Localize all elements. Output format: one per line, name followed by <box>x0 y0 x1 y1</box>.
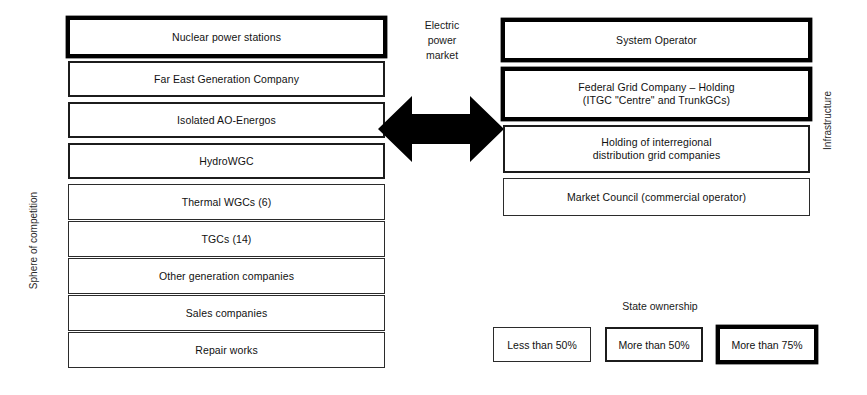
competition-node-label: Sales companies <box>186 307 267 320</box>
infrastructure-node-0[interactable]: System Operator <box>503 20 810 60</box>
competition-node-6[interactable]: Other generation companies <box>68 258 385 294</box>
infrastructure-node-1[interactable]: Federal Grid Company – Holding(ITGC "Cen… <box>503 69 810 119</box>
infrastructure-node-label: Federal Grid Company – Holding(ITGC "Cen… <box>578 81 735 107</box>
competition-node-label: Far East Generation Company <box>154 73 299 86</box>
legend-swatch-2[interactable]: More than 75% <box>718 327 816 362</box>
diagram-canvas: Sphere of competition Nuclear power stat… <box>0 0 867 395</box>
legend-swatch-1[interactable]: More than 50% <box>605 327 703 362</box>
competition-node-0[interactable]: Nuclear power stations <box>68 18 385 56</box>
legend-swatch-label: More than 75% <box>731 339 802 351</box>
competition-node-label: TGCs (14) <box>202 233 252 246</box>
competition-node-2[interactable]: Isolated AO-Energos <box>68 102 385 138</box>
competition-node-label: Thermal WGCs (6) <box>182 196 272 209</box>
competition-node-5[interactable]: TGCs (14) <box>68 221 385 257</box>
legend-swatch-0[interactable]: Less than 50% <box>493 327 591 362</box>
legend-title: State ownership <box>560 300 760 312</box>
infrastructure-node-label: Market Council (commercial operator) <box>567 191 746 204</box>
competition-node-label: Nuclear power stations <box>172 31 281 44</box>
electric-power-market-label: Electricpowermarket <box>396 18 488 63</box>
infrastructure-node-label: Holding of interregionaldistribution gri… <box>593 136 721 162</box>
competition-node-4[interactable]: Thermal WGCs (6) <box>68 184 385 220</box>
competition-node-label: Other generation companies <box>159 270 294 283</box>
competition-node-3[interactable]: HydroWGC <box>68 143 385 179</box>
legend-swatch-label: More than 50% <box>618 339 689 351</box>
competition-node-label: HydroWGC <box>199 155 253 168</box>
legend-swatch-label: Less than 50% <box>507 339 576 351</box>
double-headed-arrow-icon <box>378 92 504 166</box>
infrastructure-node-2[interactable]: Holding of interregionaldistribution gri… <box>503 125 810 173</box>
sphere-of-competition-axis-label: Sphere of competition <box>28 191 39 288</box>
infrastructure-node-label: System Operator <box>616 34 697 47</box>
competition-node-label: Isolated AO-Energos <box>177 114 276 127</box>
competition-node-1[interactable]: Far East Generation Company <box>68 61 385 97</box>
infrastructure-node-3[interactable]: Market Council (commercial operator) <box>503 178 810 216</box>
competition-node-7[interactable]: Sales companies <box>68 295 385 331</box>
competition-node-8[interactable]: Repair works <box>68 332 385 368</box>
infrastructure-axis-label: Infrastructure <box>821 91 832 150</box>
competition-node-label: Repair works <box>195 344 257 357</box>
